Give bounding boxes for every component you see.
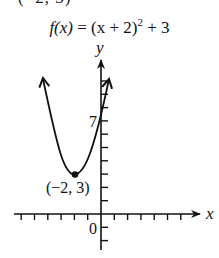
vertex-point [72, 171, 79, 178]
x-axis-label: x [205, 204, 214, 223]
vertex-label: (−2, 3) [46, 179, 90, 197]
parabola-curve [43, 79, 109, 175]
origin-label: 0 [89, 220, 97, 237]
y-axis-ticks [101, 81, 108, 241]
graph-canvas: (−2, 3) 7 0 x y [0, 0, 219, 258]
y-tick-label-7: 7 [89, 113, 97, 130]
y-axis-label: y [94, 38, 104, 57]
